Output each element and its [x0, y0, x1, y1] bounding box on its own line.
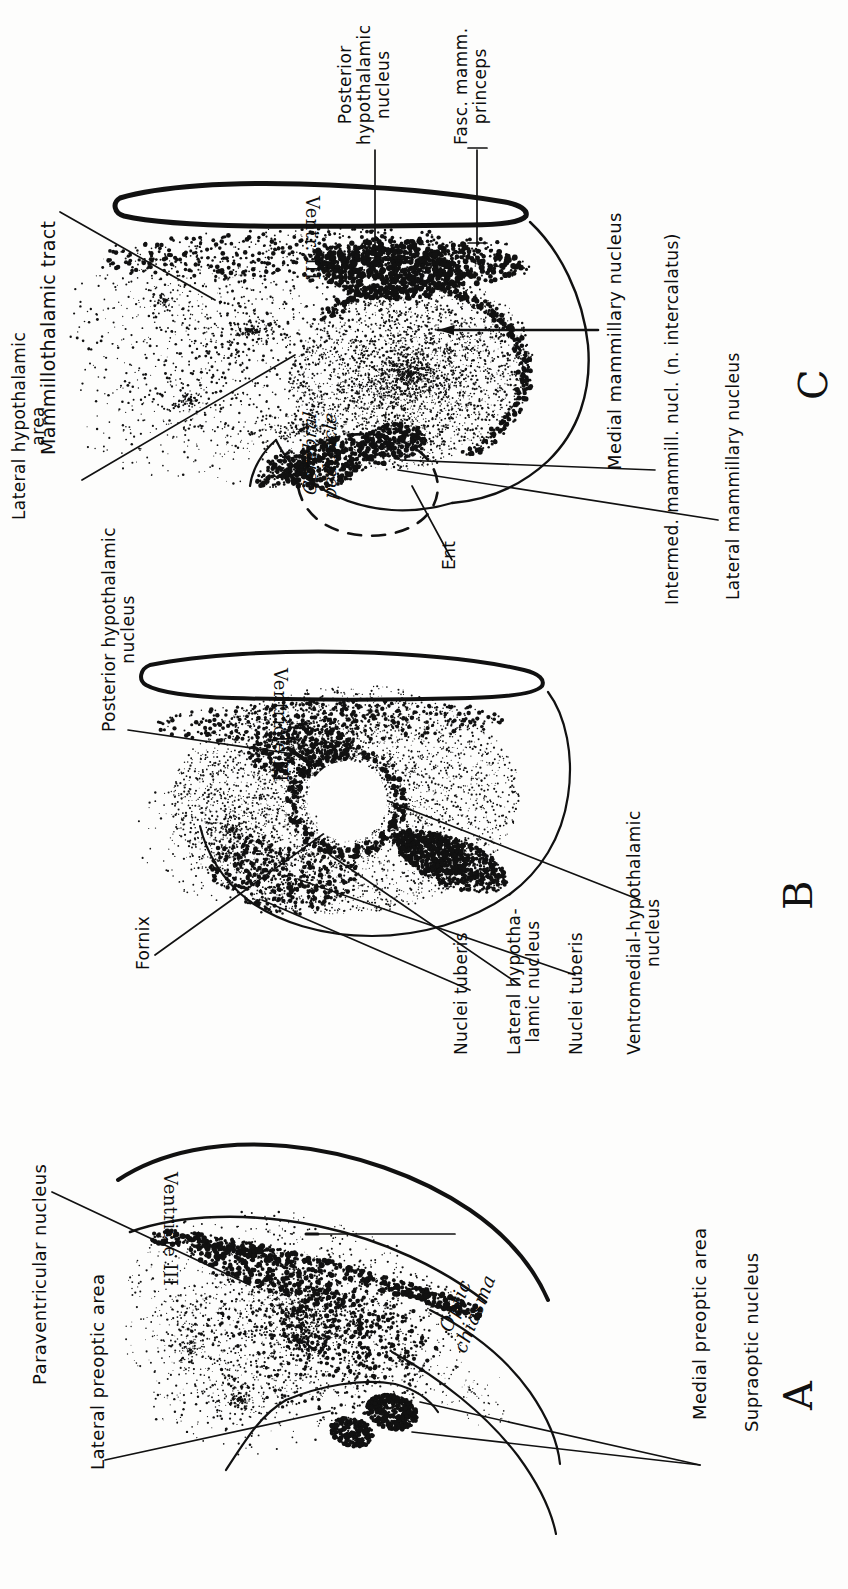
label-ventricle-a: Ventricle III: [160, 1172, 180, 1286]
panel-a-leaders: [52, 1192, 700, 1465]
leader-supraoptic-nucleus-a: [412, 1432, 700, 1465]
label-medial-mammillary-nucleus: Medial mammillary nucleus: [605, 212, 625, 470]
label-medial-preoptic-area: Medial preoptic area: [690, 1227, 710, 1420]
label-intermed-mammill-nucl: Intermed. mammill. nucl. (n. intercalatu…: [663, 233, 682, 605]
label-ventricle-b: Ventricle III: [270, 668, 290, 782]
label-fornix: Fornix: [134, 916, 153, 970]
label-fasc-mamm-princeps: Fasc. mamm. princeps: [452, 27, 490, 145]
panel-letter-b: B: [775, 881, 821, 910]
label-lateral-hypothalamic-area: Lateral hypothalamic area: [10, 332, 48, 520]
panel-letter-c: C: [790, 369, 836, 400]
leader-supraoptic-nucleus-b: [420, 1402, 700, 1465]
label-lateral-mammillary-nucleus: Lateral mammillary nucleus: [724, 352, 743, 600]
label-nuclei-tuberis-2: Nuclei tuberis: [567, 932, 586, 1055]
label-ventricle-c: Ventr. III: [302, 196, 322, 280]
label-supraoptic-nucleus: Supraoptic nucleus: [742, 1252, 762, 1432]
leader-lateral-preoptic-area: [105, 1411, 330, 1460]
label-lateral-hypothalamic-nucleus: Lateral hypotha- lamic nucleus: [505, 908, 543, 1055]
label-ventromedial-hypothalamic-nucleus: Ventromedial-hypothalamic nucleus: [625, 810, 663, 1055]
panel-letter-a: A: [775, 1381, 821, 1410]
figure-plate: Mammillothalamic tract Lateral hypothala…: [0, 0, 848, 1589]
label-posterior-hypothalamic-nucleus-b: Posterior hypothalamic nucleus: [100, 527, 138, 732]
anatomy-drawing: [0, 0, 848, 1589]
label-posterior-hypothalamic-nucleus: Posterior hypothalamic nucleus: [336, 25, 393, 145]
label-cerebral-peduncle: Cerebral peduncle: [300, 408, 340, 500]
label-paraventricular-nucleus: Paraventricular nucleus: [30, 1164, 50, 1385]
label-lateral-preoptic-area: Lateral preoptic area: [88, 1273, 108, 1470]
leader-nuclei-tuberis-1: [262, 900, 470, 990]
label-ent: Ent: [440, 541, 459, 570]
label-nuclei-tuberis-1: Nuclei tuberis: [452, 932, 471, 1055]
panel-a-outline: [118, 1144, 560, 1534]
